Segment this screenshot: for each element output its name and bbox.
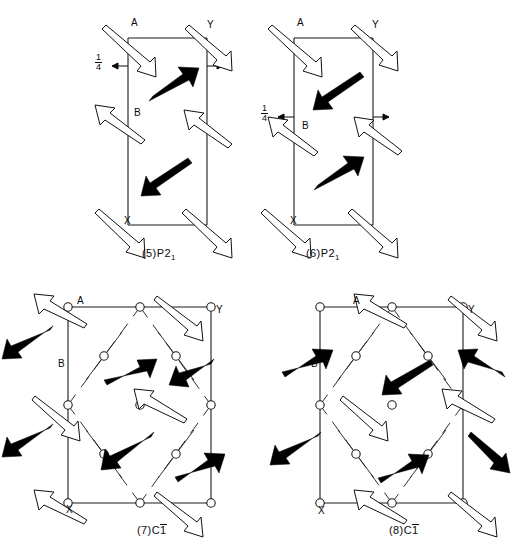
lattice-site-circle	[388, 401, 396, 409]
panel-7-caption: (7)C1	[137, 524, 167, 537]
arrow-left-upper-solid	[2, 326, 53, 359]
arrow-top-right-open	[448, 296, 497, 341]
arrow-lower-center-solid	[378, 454, 429, 483]
fraction-one-quarter: 1 4	[95, 53, 102, 72]
panel-7-caption-prefix: (7)	[137, 524, 152, 536]
quarter-height-tick-left	[112, 63, 128, 69]
vertex-label-b: B	[311, 358, 318, 369]
quarter-height-tick-right	[373, 114, 389, 120]
arrow-upper-center-solid	[382, 360, 433, 395]
vertex-label-x: X	[124, 215, 131, 226]
arrow-lower-right-solid	[175, 453, 225, 482]
lattice-site-circle	[352, 352, 360, 360]
arrow-upper-right-solid	[169, 359, 214, 387]
vertex-label-a: A	[297, 17, 304, 28]
arrow-right-lower-solid	[468, 432, 510, 473]
lattice-site-circle	[352, 450, 360, 458]
panel-7-caption-overbar: 1	[160, 524, 167, 537]
panel-7-caption-group: C	[152, 524, 160, 536]
panel-5-caption: (5)P21	[142, 247, 176, 262]
vertex-label-x: X	[318, 505, 325, 516]
panel-6-canvas	[166, 0, 466, 245]
panel-6-caption-prefix: (6)	[306, 247, 321, 259]
lattice-site-circle	[207, 303, 215, 311]
lattice-site-circle	[136, 499, 144, 507]
corner-arrow-top-left	[102, 25, 156, 77]
vertex-label-b: B	[302, 120, 309, 131]
lattice-site-circle	[136, 303, 144, 311]
lattice-site-circle	[388, 303, 396, 311]
panel-6: A Y B X 1 4 (6)P21	[166, 0, 466, 245]
corner-arrow-top-right	[351, 25, 398, 71]
panel-7-canvas	[0, 290, 270, 555]
corner-arrow-bottom-left	[261, 209, 311, 258]
arrow-bottom-right-open	[448, 492, 497, 537]
panel-8-canvas	[252, 290, 517, 555]
vertex-label-a: A	[353, 295, 360, 306]
vertex-label-b: B	[58, 358, 65, 369]
arrow-bottom-left-open	[354, 490, 407, 524]
lattice-site-circle	[424, 352, 432, 360]
fraction-denominator: 4	[95, 63, 102, 72]
arrow-bottom-left-open	[34, 490, 87, 524]
arrow-top-right-open	[154, 296, 203, 341]
arrow-lower-center-solid	[101, 432, 154, 470]
corner-arrow-bottom-left	[95, 209, 145, 258]
lattice-site-circle	[207, 499, 215, 507]
panel-8: A Y B X (8)C1	[252, 290, 517, 555]
arrow-upper-center-solid	[104, 359, 157, 385]
arrow-left-upper-solid	[282, 349, 333, 377]
panel-8-caption-group: C	[404, 524, 412, 536]
lattice-site-circle	[172, 352, 180, 360]
arrow-inner-left-open	[340, 396, 388, 441]
vertex-label-y: Y	[372, 19, 379, 30]
fraction-one-quarter: 1 4	[261, 104, 268, 123]
edge-arrow-right-mid	[354, 117, 402, 155]
lattice-site-circle	[316, 303, 324, 311]
lattice-site-circle	[388, 499, 396, 507]
panel-5-caption-group: P2	[157, 247, 171, 259]
lattice-sites	[316, 303, 467, 507]
lattice-site-circle	[172, 450, 180, 458]
panel-5-caption-prefix: (5)	[142, 247, 157, 259]
panel-5-caption-subscript: 1	[171, 253, 176, 262]
vertex-label-x: X	[66, 504, 73, 515]
vertex-label-x: X	[290, 215, 297, 226]
corner-arrow-top-left	[268, 25, 322, 77]
arrow-left-lower-solid	[270, 432, 321, 465]
lattice-site-circle	[207, 401, 215, 409]
interior-arrow-upper	[313, 72, 364, 110]
arrow-right-upper-solid	[458, 349, 505, 377]
figure-root: A Y B X 1 4 (5)P21	[0, 0, 517, 555]
panel-8-caption-overbar: 1	[412, 524, 419, 537]
panel-6-caption: (6)P21	[306, 247, 340, 262]
arrow-top-left-open	[354, 294, 407, 328]
lattice-site-circle	[316, 401, 324, 409]
vertex-label-a: A	[77, 295, 84, 306]
panel-8-caption: (8)C1	[389, 524, 419, 537]
lattice-site-circle	[64, 401, 72, 409]
edge-arrow-left-mid	[268, 117, 318, 156]
vertex-label-y: Y	[468, 304, 475, 315]
fraction-denominator: 4	[261, 114, 268, 123]
interior-arrow-lower	[314, 156, 364, 190]
vertex-label-y: Y	[216, 304, 223, 315]
panel-8-caption-prefix: (8)	[389, 524, 404, 536]
lattice-site-circle	[100, 352, 108, 360]
panel-6-caption-group: P2	[321, 247, 335, 259]
panel-6-caption-subscript: 1	[335, 253, 340, 262]
vertex-label-a: A	[131, 17, 138, 28]
panel-7: A Y B X (7)C1	[0, 290, 270, 555]
arrow-inner-right-open	[442, 389, 495, 423]
arrow-center-open	[134, 389, 187, 423]
arrow-left-lower-solid	[2, 424, 53, 457]
vertex-label-b: B	[134, 107, 141, 118]
